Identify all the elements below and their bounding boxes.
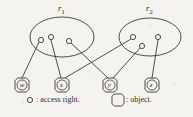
object-label-obj-y: y: [108, 82, 111, 89]
access-right-circle-r1-a2[interactable]: [48, 34, 53, 39]
access-right-circle-r2-a2[interactable]: [139, 43, 144, 48]
legend-object-label: : object.: [126, 96, 152, 104]
figure-canvas: r1r2wxyz: access right.: object.: [0, 0, 193, 117]
access-control-diagram: [0, 0, 193, 117]
role-label-r2: r2: [146, 4, 153, 15]
access-right-circle-r2-a3[interactable]: [155, 34, 160, 39]
object-label-obj-z: z: [150, 82, 153, 89]
legend-access-right-icon: [27, 97, 32, 102]
role-label-subscript: 1: [62, 8, 65, 15]
roles-layer: [30, 17, 181, 57]
object-label-obj-w: w: [20, 82, 25, 89]
edge-r2-a2-to-obj-y: [113, 48, 140, 78]
legend-access-right-label: : access right.: [36, 96, 80, 104]
object-label-obj-x: x: [60, 82, 63, 89]
role-label-subscript: 2: [150, 8, 153, 15]
edge-r2-a1-to-obj-x: [65, 39, 131, 78]
role-ellipse-r1: [30, 17, 94, 57]
edge-r1-a3-to-obj-y: [71, 43, 108, 78]
edges-layer: [22, 39, 158, 78]
edge-r1-a2-to-obj-x: [51, 40, 61, 78]
access-right-circle-r2-a1[interactable]: [130, 34, 135, 39]
objects-layer: [15, 78, 159, 92]
edge-r1-a1-to-obj-w: [22, 42, 39, 78]
edge-r2-a3-to-obj-z: [152, 40, 158, 78]
access-right-circle-r1-a3[interactable]: [66, 38, 71, 43]
role-ellipse-r2: [119, 18, 181, 56]
access-right-circle-r1-a1[interactable]: [38, 37, 43, 42]
legend-object-icon: [112, 94, 124, 106]
role-label-r1: r1: [58, 4, 65, 15]
